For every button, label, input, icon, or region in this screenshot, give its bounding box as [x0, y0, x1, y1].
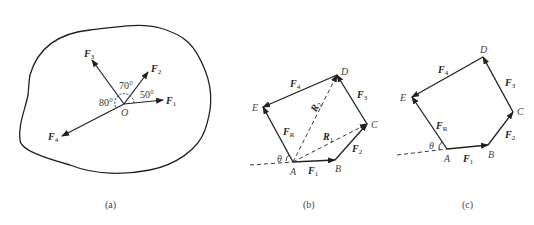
- panel-c: A B C D E F1 F2 F3 F4 FR θ (c): [397, 44, 524, 211]
- panel-a: F1 F2 F3 F4 O 50° 70° 80° (a): [20, 25, 211, 211]
- label-f1: F1: [165, 95, 177, 108]
- label-f1: F1: [462, 153, 474, 166]
- label-angle-70: 70°: [119, 80, 133, 91]
- label-f4: F4: [289, 78, 301, 91]
- point-c: C: [517, 106, 524, 117]
- force-polygon-figure: F1 F2 F3 F4 O 50° 70° 80° (a) A B C D E …: [0, 0, 534, 225]
- reference-dashed-line: [250, 162, 293, 165]
- force-f1-arrow: [447, 145, 488, 149]
- point-b: B: [488, 149, 494, 160]
- force-f1-arrow: [293, 160, 335, 162]
- label-theta: θ: [429, 140, 434, 151]
- force-f2-arrow: [335, 124, 367, 160]
- panel-b: A B C D E F1 F2 F3 F4 FR R1 R2 θ (b): [250, 66, 378, 211]
- label-f4: F4: [437, 64, 449, 77]
- point-e: E: [251, 102, 258, 113]
- label-theta: θ: [277, 153, 282, 164]
- reference-dashed-line: [397, 149, 447, 155]
- point-a: A: [289, 166, 297, 177]
- label-angle-80: 80°: [99, 97, 113, 108]
- force-f4-arrow: [412, 57, 483, 97]
- label-angle-50: 50°: [140, 89, 154, 100]
- theta-arc: [286, 155, 289, 161]
- point-c: C: [371, 119, 378, 130]
- label-f2: F2: [351, 143, 363, 156]
- point-a: A: [443, 153, 451, 164]
- label-f4: F4: [47, 131, 59, 144]
- caption-a: (a): [105, 199, 116, 211]
- label-fr: FR: [435, 120, 448, 133]
- theta-arc: [439, 142, 442, 150]
- label-f3: F3: [504, 77, 516, 90]
- caption-c: (c): [462, 199, 473, 211]
- point-d: D: [340, 66, 349, 77]
- label-f2: F2: [150, 63, 162, 76]
- label-f1: F1: [307, 165, 319, 178]
- force-f1-arrow: [124, 100, 163, 104]
- point-d: D: [479, 44, 488, 55]
- caption-b: (b): [303, 199, 315, 211]
- point-b: B: [335, 163, 341, 174]
- angle-arc: [115, 94, 134, 108]
- label-origin: O: [121, 107, 128, 118]
- label-fr: FR: [282, 126, 295, 139]
- force-f4-arrow: [62, 104, 124, 136]
- force-f4-arrow: [263, 75, 337, 107]
- label-f3: F3: [356, 89, 368, 102]
- label-r2: R2: [308, 99, 325, 115]
- point-e: E: [399, 92, 406, 103]
- label-f3: F3: [83, 48, 95, 61]
- label-r1: R1: [322, 131, 334, 144]
- label-f2: F2: [504, 129, 516, 142]
